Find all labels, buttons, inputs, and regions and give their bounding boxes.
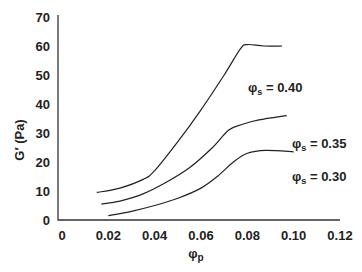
x-tick-label: 0.06 xyxy=(188,228,213,243)
y-tick-label: 20 xyxy=(36,155,50,170)
series-label: φs = 0.35 xyxy=(292,136,346,153)
x-tick-label: 0.04 xyxy=(142,228,168,243)
series-curve xyxy=(101,116,286,204)
y-tick-label: 60 xyxy=(36,39,50,54)
curves xyxy=(97,44,294,215)
y-axis-label: G′ (Pa) xyxy=(12,119,27,160)
chart: 01020304050607000.020.040.060.080.100.12… xyxy=(0,0,362,272)
x-tick-label: 0.10 xyxy=(281,228,306,243)
x-axis-label: φp xyxy=(188,246,203,263)
y-tick-label: 70 xyxy=(36,10,50,25)
curve-labels: φs = 0.40φs = 0.35φs = 0.30 xyxy=(248,80,346,186)
x-tick-label: 0.12 xyxy=(327,228,352,243)
y-tick-label: 50 xyxy=(36,68,50,83)
y-tick-label: 40 xyxy=(36,97,50,112)
x-tick-label: 0.02 xyxy=(96,228,121,243)
series-label: φs = 0.30 xyxy=(292,169,346,186)
y-tick-label: 0 xyxy=(43,213,50,228)
series-curve xyxy=(97,44,282,192)
y-tick-label: 30 xyxy=(36,126,50,141)
y-tick-label: 10 xyxy=(36,184,50,199)
series-label: φs = 0.40 xyxy=(248,80,302,97)
x-tick-label: 0.08 xyxy=(235,228,260,243)
x-tick-label: 0 xyxy=(58,228,65,243)
